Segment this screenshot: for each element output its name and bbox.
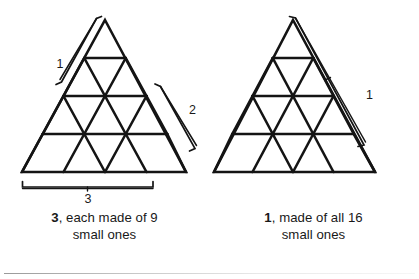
grid-diag-left-3 [22, 134, 43, 172]
brace-size-3-label: 3 [85, 192, 92, 206]
right-triangle-grid [214, 20, 375, 172]
caption-left: 3, each made of 9 small ones [0, 209, 209, 243]
grid-diag-left-2 [43, 96, 64, 134]
brace-size-2-label: 2 [189, 103, 196, 117]
brace-size-4-label: 1 [366, 88, 373, 102]
caption-right-rest: , made of all 16 [272, 210, 363, 225]
brace-size-2-stroke [155, 84, 195, 151]
caption-left-rest: , each made of 9 [59, 210, 158, 225]
bottom-divider-rule [4, 273, 415, 274]
left-triangle-grid [22, 20, 186, 172]
grid-diag-left-1 [253, 58, 273, 96]
brace-size-1 [56, 17, 102, 85]
grid-diag-left-5 [253, 134, 273, 172]
grid-diag-left-1 [64, 58, 85, 96]
grid-diag-right-5 [126, 134, 147, 172]
grid-diag-left-2 [232, 96, 252, 134]
brace-size-2 [155, 84, 197, 151]
left-triangle-diagram: 1 2 3 [0, 0, 209, 210]
triangle-subdivision-figure: 1 2 3 3, each made of 9 small ones [0, 0, 419, 279]
brace-size-4-inner [296, 18, 366, 142]
caption-right-count: 1 [264, 210, 271, 225]
caption-left-line2: small ones [0, 226, 209, 243]
caption-right-line2: small ones [209, 226, 418, 243]
grid-diag-right-1 [126, 58, 147, 96]
brace-size-1-label: 1 [57, 57, 64, 71]
caption-left-count: 3 [51, 210, 58, 225]
brace-size-3-stroke [23, 182, 154, 188]
brace-size-3 [23, 182, 154, 192]
grid-diag-left-5 [64, 134, 85, 172]
panel-right: 1 1, made of all 16 small ones [209, 0, 418, 279]
grid-diag-right-3 [167, 134, 186, 172]
grid-diag-right-2 [147, 96, 168, 134]
caption-right: 1, made of all 16 small ones [209, 209, 418, 243]
grid-diag-left-3 [214, 134, 232, 172]
grid-diag-right-5 [313, 134, 333, 172]
panel-left: 1 2 3 3, each made of 9 small ones [0, 0, 209, 279]
right-triangle-diagram: 1 [209, 0, 418, 210]
